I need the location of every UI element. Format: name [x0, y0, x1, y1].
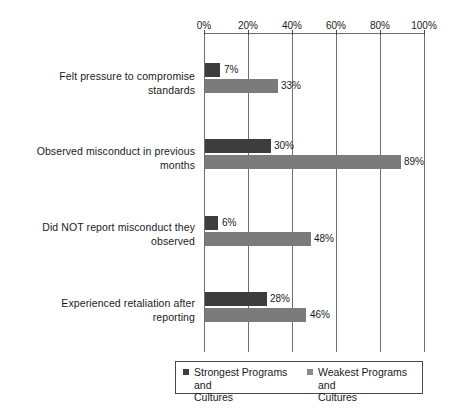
- legend-swatch-icon: [307, 369, 313, 375]
- legend-label-strongest: Strongest Programs and Cultures: [194, 366, 306, 404]
- bar-felt-pressure-weakest: [205, 79, 278, 93]
- bar-observed-misconduct-weakest: [205, 155, 401, 169]
- bar-value-did-not-report-strongest: 6%: [219, 216, 236, 230]
- chart-legend: Strongest Programs and Cultures Weakest …: [175, 361, 423, 394]
- category-label-line2: observed: [0, 235, 195, 249]
- tickmark-100: [424, 30, 425, 35]
- plot-area: 7% 33% 30% 89% 6% 48% 28% 46%: [204, 34, 424, 352]
- gridline-60: [336, 34, 337, 352]
- bar-experienced-retaliation-weakest: [205, 308, 306, 322]
- bar-did-not-report-weakest: [205, 232, 311, 246]
- category-label-line1: Observed misconduct in previous: [0, 145, 195, 159]
- legend-label-line1: Strongest Programs and: [194, 366, 287, 391]
- legend-label-line2: Cultures: [318, 391, 357, 403]
- bar-value-did-not-report-weakest: 48%: [311, 232, 334, 246]
- category-label-observed-misconduct: Observed misconduct in previous months: [0, 145, 195, 172]
- bar-observed-misconduct-strongest: [205, 139, 271, 153]
- category-label-line2: reporting: [0, 311, 195, 325]
- bar-value-felt-pressure-strongest: 7%: [221, 63, 238, 77]
- legend-label-line1: Weakest Programs and: [318, 366, 407, 391]
- category-label-line1: Experienced retaliation after: [0, 297, 195, 311]
- legend-label-weakest: Weakest Programs and Cultures: [318, 366, 422, 404]
- bar-felt-pressure-strongest: [205, 63, 220, 77]
- tickmark-0: [204, 30, 205, 35]
- bar-value-observed-misconduct-strongest: 30%: [271, 139, 294, 153]
- category-label-did-not-report: Did NOT report misconduct they observed: [0, 221, 195, 248]
- legend-item-weakest[interactable]: Weakest Programs and Cultures: [307, 366, 422, 404]
- clipped-chart-title: [0, 0, 451, 1]
- legend-label-line2: Cultures: [194, 391, 233, 403]
- tickmark-60: [336, 30, 337, 35]
- bar-experienced-retaliation-strongest: [205, 292, 267, 306]
- category-label-felt-pressure: Felt pressure to compromise standards: [0, 70, 195, 97]
- bar-value-felt-pressure-weakest: 33%: [278, 79, 301, 93]
- bar-value-observed-misconduct-weakest: 89%: [401, 155, 424, 169]
- tickmark-80: [380, 30, 381, 35]
- category-label-line2: months: [0, 159, 195, 173]
- tickmark-40: [292, 30, 293, 35]
- category-label-line2: standards: [0, 84, 195, 98]
- gridline-80: [380, 34, 381, 352]
- bar-chart: 0% 20% 40% 60% 80% 100% Felt pressure to…: [0, 0, 451, 419]
- legend-swatch-icon: [183, 369, 189, 375]
- bar-value-experienced-retaliation-strongest: 28%: [267, 292, 290, 306]
- category-label-line1: Felt pressure to compromise: [0, 70, 195, 84]
- bar-value-experienced-retaliation-weakest: 46%: [307, 308, 330, 322]
- category-label-line1: Did NOT report misconduct they: [0, 221, 195, 235]
- tickmark-20: [248, 30, 249, 35]
- bar-did-not-report-strongest: [205, 216, 218, 230]
- legend-item-strongest[interactable]: Strongest Programs and Cultures: [183, 366, 306, 404]
- category-label-experienced-retaliation: Experienced retaliation after reporting: [0, 297, 195, 324]
- gridline-100: [424, 34, 425, 352]
